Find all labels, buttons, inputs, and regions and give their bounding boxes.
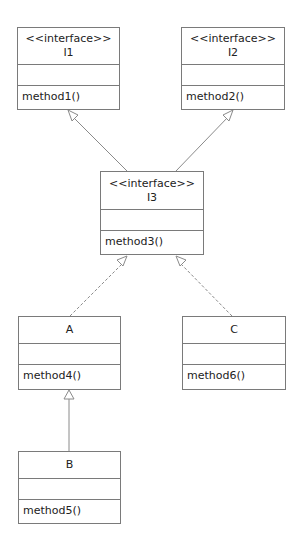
operations-compartment: method5() (19, 500, 120, 518)
class-i1[interactable]: <<interface>> I1 method1() (17, 27, 120, 110)
hollow-arrowhead-icon (117, 256, 127, 266)
class-b[interactable]: B method5() (18, 451, 121, 524)
hollow-arrowhead-icon (64, 390, 74, 399)
method: method2() (186, 90, 244, 103)
class-name: B (19, 458, 120, 472)
class-i2[interactable]: <<interface>> I2 method2() (181, 27, 285, 110)
operations-compartment: method6() (183, 365, 285, 383)
attributes-compartment (182, 65, 284, 86)
method: method3() (105, 235, 163, 248)
method: method5() (23, 504, 81, 517)
class-name: C (183, 323, 285, 337)
operations-compartment: method1() (18, 86, 119, 104)
class-header: C (183, 317, 285, 344)
class-header: <<interface>> I3 (101, 172, 203, 210)
operations-compartment: method4() (19, 365, 120, 383)
class-name: I3 (101, 191, 203, 205)
class-header: <<interface>> I1 (18, 28, 119, 65)
edge-c-to-i3 (180, 263, 232, 316)
stereotype-label: <<interface>> (182, 32, 284, 46)
class-header: <<interface>> I2 (182, 28, 284, 65)
edge-i3-to-i1 (72, 116, 127, 171)
attributes-compartment (19, 344, 120, 365)
attributes-compartment (101, 210, 203, 231)
edge-i3-to-i2 (176, 116, 229, 171)
stereotype-label: <<interface>> (18, 32, 119, 46)
hollow-arrowhead-icon (176, 256, 186, 266)
attributes-compartment (19, 479, 120, 500)
stereotype-label: <<interface>> (101, 177, 203, 191)
method: method6() (187, 369, 245, 382)
operations-compartment: method2() (182, 86, 284, 104)
class-header: A (19, 317, 120, 344)
class-name: I1 (18, 46, 119, 60)
class-c[interactable]: C method6() (182, 316, 286, 390)
attributes-compartment (18, 65, 119, 86)
hollow-arrowhead-icon (68, 110, 78, 121)
attributes-compartment (183, 344, 285, 365)
class-a[interactable]: A method4() (18, 316, 121, 390)
method: method4() (23, 369, 81, 382)
class-i3[interactable]: <<interface>> I3 method3() (100, 171, 204, 255)
method: method1() (22, 90, 80, 103)
operations-compartment: method3() (101, 231, 203, 249)
hollow-arrowhead-icon (223, 110, 233, 121)
class-name: A (19, 323, 120, 337)
class-name: I2 (182, 46, 284, 60)
class-header: B (19, 452, 120, 479)
edge-a-to-i3 (70, 263, 123, 316)
